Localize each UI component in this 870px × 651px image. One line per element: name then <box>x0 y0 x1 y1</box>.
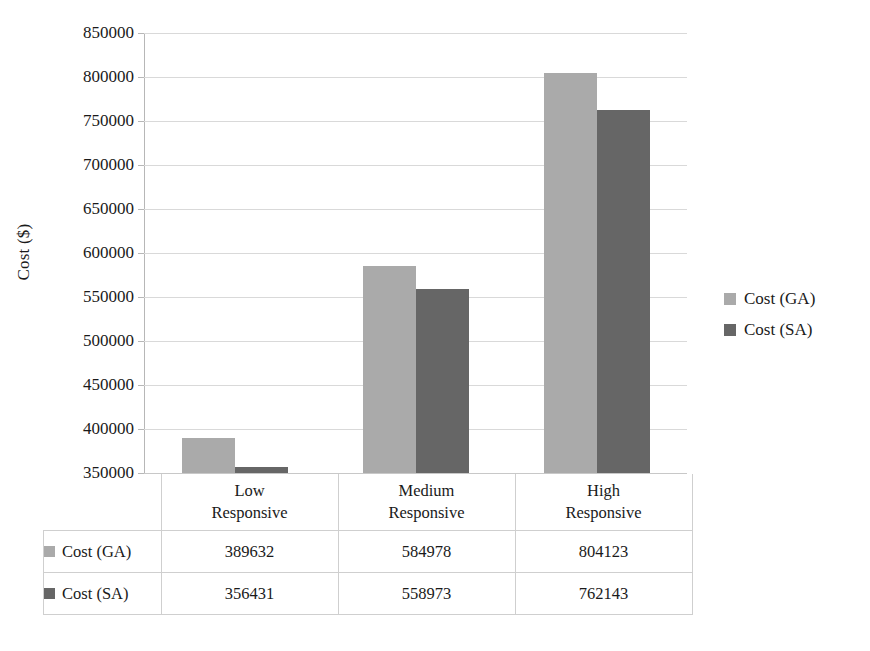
table-row: Cost (GA) 389632 584978 804123 <box>44 531 693 573</box>
bar-ga-2[interactable] <box>544 73 597 473</box>
table-header-low: Low Responsive <box>161 474 338 531</box>
table-row: Cost (SA) 356431 558973 762143 <box>44 573 693 615</box>
y-axis-tick-label: 650000 <box>24 200 134 217</box>
bar-sa-2[interactable] <box>597 110 650 473</box>
table-cell-ga-low: 389632 <box>161 531 338 573</box>
legend-swatch-icon-sa <box>724 324 736 336</box>
data-table: Low Responsive Medium Responsive High Re… <box>43 474 693 615</box>
plot-area <box>144 33 687 473</box>
legend: Cost (GA) Cost (SA) <box>724 283 864 345</box>
y-axis-tick-label: 500000 <box>24 332 134 349</box>
table-header-high-line2: Responsive <box>516 502 692 524</box>
table-row-label-text-ga: Cost (GA) <box>62 542 131 562</box>
legend-label-sa: Cost (SA) <box>744 320 812 340</box>
table-swatch-icon-sa <box>44 588 55 599</box>
table-header-medium-line1: Medium <box>339 480 515 502</box>
y-axis-tick-label: 700000 <box>24 156 134 173</box>
table-header-high: High Responsive <box>515 474 692 531</box>
gridline <box>144 77 687 78</box>
table-cell-ga-high: 804123 <box>515 531 692 573</box>
gridline <box>144 33 687 34</box>
table-cell-ga-medium: 584978 <box>338 531 515 573</box>
legend-swatch-icon-ga <box>724 293 736 305</box>
table-cell-sa-high: 762143 <box>515 573 692 615</box>
bar-sa-1[interactable] <box>416 289 469 473</box>
table-header-low-line1: Low <box>162 480 338 502</box>
bar-chart: Cost ($) 8500008000007500007000006500006… <box>0 0 870 651</box>
y-axis-tick-label: 800000 <box>24 68 134 85</box>
legend-item-cost-sa[interactable]: Cost (SA) <box>724 314 864 345</box>
y-axis-tick-label: 850000 <box>24 24 134 41</box>
y-axis-tick-label: 450000 <box>24 376 134 393</box>
table-swatch-icon-ga <box>44 546 55 557</box>
y-axis-tick-label: 600000 <box>24 244 134 261</box>
table-header-low-line2: Responsive <box>162 502 338 524</box>
y-axis-tick-label: 400000 <box>24 420 134 437</box>
table-header-high-line1: High <box>516 480 692 502</box>
bar-sa-0[interactable] <box>235 467 288 473</box>
table-header-medium: Medium Responsive <box>338 474 515 531</box>
legend-label-ga: Cost (GA) <box>744 289 815 309</box>
table-header-row: Low Responsive Medium Responsive High Re… <box>44 474 693 531</box>
bar-ga-1[interactable] <box>363 266 416 473</box>
table-header-corner <box>44 474 162 531</box>
table-cell-sa-low: 356431 <box>161 573 338 615</box>
table-row-label-text-sa: Cost (SA) <box>62 584 128 604</box>
table-cell-sa-medium: 558973 <box>338 573 515 615</box>
y-axis-tick-label: 550000 <box>24 288 134 305</box>
table-row-label-ga: Cost (GA) <box>44 531 162 573</box>
bar-ga-0[interactable] <box>182 438 235 473</box>
table-header-medium-line2: Responsive <box>339 502 515 524</box>
y-axis-tick-label: 750000 <box>24 112 134 129</box>
table-row-label-sa: Cost (SA) <box>44 573 162 615</box>
legend-item-cost-ga[interactable]: Cost (GA) <box>724 283 864 314</box>
